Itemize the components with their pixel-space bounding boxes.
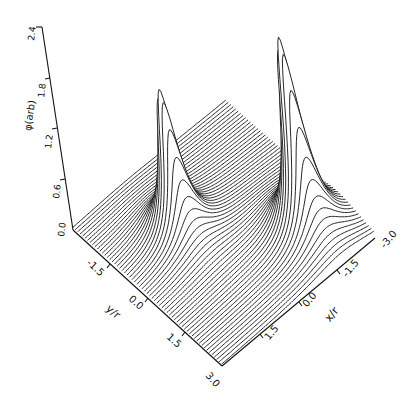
z-tick-label-0.6: 0.6 [51, 184, 63, 200]
y-tick-0.0 [145, 298, 148, 302]
z-tick-1.8 [45, 78, 50, 79]
surface-plot [0, 0, 408, 402]
z-tick-label-0.0: 0.0 [56, 222, 68, 238]
y-tick-1.5 [182, 332, 185, 336]
z-tick-label-1.8: 1.8 [36, 83, 48, 99]
z-axis-line [42, 27, 73, 230]
z-tick-label-2.4: 2.4 [26, 26, 38, 42]
z-tick-0.6 [60, 179, 65, 180]
z-tick-1.2 [52, 128, 57, 129]
z-tick-label-1.2: 1.2 [43, 134, 55, 150]
y-tick--1.5 [107, 264, 110, 268]
